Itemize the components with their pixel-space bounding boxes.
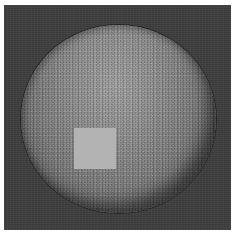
dark-background-frame <box>4 5 231 230</box>
textured-sphere <box>21 25 216 213</box>
light-gray-square-patch <box>74 128 116 169</box>
sphere-rim-shading <box>21 25 216 213</box>
